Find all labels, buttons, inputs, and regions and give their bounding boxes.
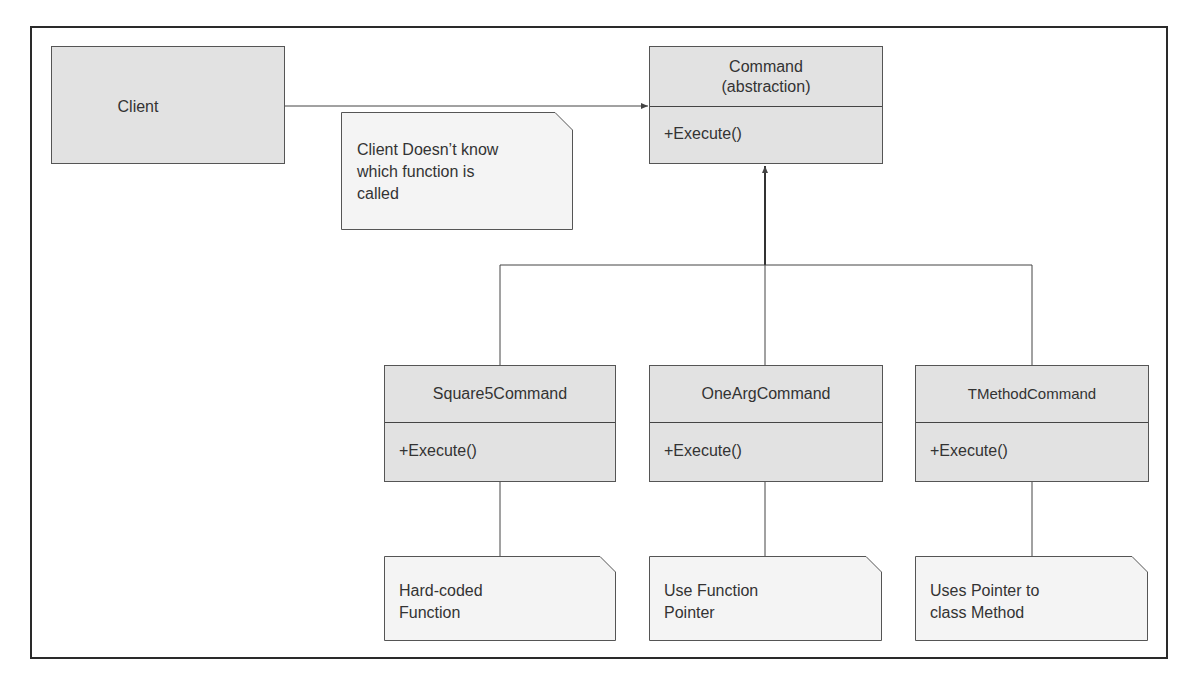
client-note: Client Doesn’t know which function is ca… [357, 139, 498, 205]
class-method: +Execute() [664, 441, 742, 461]
class-method: +Execute() [930, 441, 1008, 461]
note-line: class Method [930, 602, 1039, 624]
client-box: Client [51, 46, 285, 164]
note-line: Pointer [664, 602, 758, 624]
note-line: Hard-coded [399, 580, 483, 602]
class-divider [650, 422, 882, 423]
command-method: +Execute() [664, 124, 742, 144]
class-name: OneArgCommand [650, 384, 882, 404]
command-stereotype: (abstraction) [650, 77, 882, 97]
note-line: Function [399, 602, 483, 624]
oneargcommand-class-box: OneArgCommand +Execute() [649, 365, 883, 482]
note-line: Use Function [664, 580, 758, 602]
tmethodcommand-class-box: TMethodCommand +Execute() [915, 365, 1149, 482]
class-name: TMethodCommand [916, 384, 1148, 404]
square5-note: Hard-coded Function [399, 580, 483, 624]
client-note-line: which function is [357, 161, 498, 183]
class-divider [916, 422, 1148, 423]
onearg-note: Use Function Pointer [664, 580, 758, 624]
tmethod-note: Uses Pointer to class Method [930, 580, 1039, 624]
client-note-line: called [357, 183, 498, 205]
command-name: Command [650, 57, 882, 77]
class-method: +Execute() [399, 441, 477, 461]
client-label: Client [0, 97, 284, 117]
note-line: Uses Pointer to [930, 580, 1039, 602]
class-name: Square5Command [385, 384, 615, 404]
class-divider [385, 422, 615, 423]
square5command-class-box: Square5Command +Execute() [384, 365, 616, 482]
command-divider [650, 106, 882, 107]
command-class-box: Command (abstraction) +Execute() [649, 46, 883, 164]
client-note-line: Client Doesn’t know [357, 139, 498, 161]
